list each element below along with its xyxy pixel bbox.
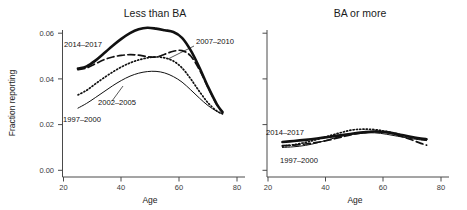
left-label-2007-2010: 2007–2010: [196, 37, 234, 46]
left-label-2002-2005: 2002–2005: [98, 98, 136, 107]
right-x-axis-title: Age: [347, 195, 362, 205]
panel-title-ba-or-more: BA or more: [334, 7, 387, 19]
left-xtick-label-2: 60: [175, 183, 183, 192]
left-xtick-label-3: 80: [233, 183, 241, 192]
left-ytick-label-2: 0.04: [39, 75, 54, 84]
left-ytick-label-0: 0.00: [39, 166, 54, 175]
left-ytick-label-1: 0.02: [39, 120, 54, 129]
figure-background: [0, 0, 467, 210]
left-ytick-label-3: 0.06: [39, 29, 54, 38]
y-axis-title: Fraction reporting: [7, 69, 17, 136]
right-label-1997-2000: 1997–2000: [280, 156, 318, 165]
right-xtick-label-2: 60: [379, 183, 387, 192]
panel-title-less-than-ba: Less than BA: [124, 7, 186, 19]
left-label-2014-2017: 2014–2017: [64, 40, 102, 49]
right-xtick-label-0: 20: [264, 183, 272, 192]
right-xtick-label-3: 80: [437, 183, 445, 192]
right-xtick-label-1: 40: [321, 183, 329, 192]
left-xtick-label-1: 40: [117, 183, 125, 192]
left-xtick-label-0: 20: [59, 183, 67, 192]
left-x-axis-title: Age: [142, 195, 157, 205]
chart-figure: Less than BA 0.00 0.02 0.04 0.06 20 40 6…: [0, 0, 467, 210]
left-label-1997-2000: 1997–2000: [63, 115, 101, 124]
right-label-2014-2017: 2014–2017: [266, 128, 304, 137]
